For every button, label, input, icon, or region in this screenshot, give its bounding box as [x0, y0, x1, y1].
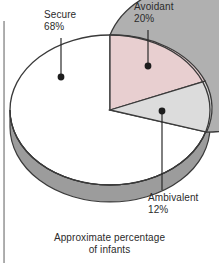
- pie-label-avoidant: Avoidant 20%: [134, 1, 174, 24]
- pie-label-avoidant-percent: 20%: [134, 13, 174, 25]
- pie-label-avoidant-name: Avoidant: [134, 1, 174, 12]
- pie-chart-figure: Secure 68% Avoidant 20% Ambivalent 12% A…: [0, 0, 219, 263]
- figure-caption: Approximate percentage of infants: [0, 232, 219, 256]
- leader-dot-ambivalent: [159, 108, 166, 115]
- leader-dot-secure: [58, 74, 65, 81]
- pie-top-face: [10, 0, 219, 185]
- pie-chart-graphic: [0, 0, 219, 263]
- pie-label-secure-percent: 68%: [44, 21, 76, 33]
- figure-caption-line-1: Approximate percentage: [0, 232, 219, 244]
- pie-label-ambivalent-name: Ambivalent: [148, 192, 198, 203]
- figure-caption-line-2: of infants: [0, 244, 219, 256]
- pie-label-secure-name: Secure: [44, 9, 76, 20]
- pie-label-secure: Secure 68%: [44, 9, 76, 32]
- pie-label-ambivalent: Ambivalent 12%: [148, 192, 198, 215]
- leader-dot-avoidant: [145, 63, 152, 70]
- pie-label-ambivalent-percent: 12%: [148, 204, 198, 216]
